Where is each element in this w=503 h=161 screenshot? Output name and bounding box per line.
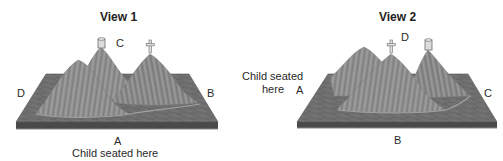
view-2-label-right: C [484, 88, 492, 99]
view-1-observer-caption: Child seated here [72, 148, 158, 159]
view-1-model [16, 38, 218, 129]
view-2-title: View 2 [379, 11, 416, 23]
view-2-model [297, 39, 497, 128]
view-2-observer-caption-line2: here [262, 84, 284, 95]
cross-icon [146, 40, 154, 53]
board-base [297, 122, 497, 128]
view-1-label-front: A [114, 136, 121, 147]
tower-icon [425, 39, 432, 50]
view-1-label-back: C [116, 38, 124, 49]
view-1-title: View 1 [100, 11, 137, 23]
view-2-label-front: B [394, 135, 401, 146]
view-1-label-left: D [17, 88, 25, 99]
board-base [16, 122, 218, 129]
view-2-label-back: D [401, 32, 409, 43]
view-1-label-right: B [207, 88, 214, 99]
view-2-label-left: A [296, 85, 303, 96]
cross-icon [387, 40, 395, 53]
tower-icon [98, 38, 105, 48]
view-2-observer-caption-line1: Child seated [242, 71, 303, 82]
